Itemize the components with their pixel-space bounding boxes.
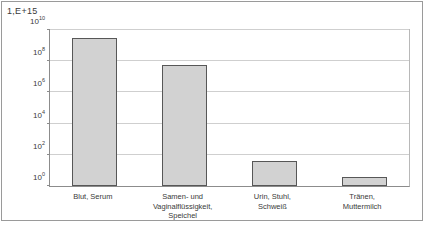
y-axis-tick-label: 1010 (30, 18, 45, 26)
plot-area: 1001021041061081010 (49, 29, 410, 187)
bar (342, 177, 387, 186)
x-axis-category-label-line: Tränen, (308, 192, 416, 202)
corner-axis-label: 1,E+15 (7, 6, 38, 16)
chart-frame: 1,E+15 1001021041061081010 Blut, SerumSa… (1, 1, 423, 221)
bar (162, 65, 207, 186)
x-axis-category-label: Tränen,Muttermilch (308, 192, 416, 211)
x-axis-category-label-line: Muttermilch (308, 202, 416, 212)
y-axis-tick-mark (47, 60, 50, 61)
bar (72, 38, 117, 186)
bar (252, 161, 297, 186)
y-axis-tick-mark (47, 91, 50, 92)
y-axis-tick-mark (47, 29, 50, 30)
y-axis-tick-label: 108 (33, 49, 45, 57)
y-axis-tick-mark (47, 185, 50, 186)
x-axis-category-label-line: Speichel (129, 211, 237, 221)
y-axis-tick-mark (47, 123, 50, 124)
y-axis-tick-label: 104 (33, 112, 45, 120)
y-axis-tick-label: 100 (33, 174, 45, 182)
gridline (50, 29, 409, 30)
y-axis-tick-label: 106 (33, 80, 45, 88)
y-axis-tick-mark (47, 154, 50, 155)
y-axis-tick-label: 102 (33, 143, 45, 151)
